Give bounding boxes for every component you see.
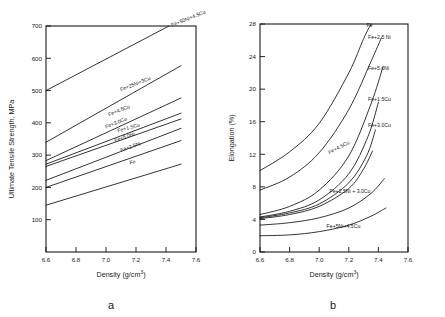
series-curve-fe-2-5ni: [46, 141, 181, 188]
x-tick-label: 6.6: [42, 256, 51, 263]
y-tick-label: 8: [253, 183, 257, 190]
series-label-fe-2-5ni: Fe+2.5Ni: [119, 140, 141, 153]
series-label-fe-25ni-3cu: Fe+25Ni+3Cu: [119, 75, 151, 93]
series-label-fe-50ni-4-5cu: Fe+50Ni+4.5Cu: [170, 9, 206, 28]
series-curve-fe-5ni-4-5cu: [260, 208, 386, 236]
x-tick-label: 7.4: [162, 256, 171, 263]
x-axis-title: Density (g/cm3): [309, 269, 358, 279]
series-curve-fe-3-0cu: [260, 130, 375, 218]
series-curve-fe-2-5ni: [260, 38, 381, 190]
y-tick-label: 12: [249, 151, 256, 158]
panel-b-caption: b: [222, 299, 444, 311]
x-axis-title: Density (g/cm3): [96, 269, 145, 279]
x-tick-label: 6.8: [285, 256, 294, 263]
x-tick-label: 6.8: [72, 256, 81, 263]
y-tick-label: 28: [249, 20, 256, 27]
y-tick-label: 200: [32, 184, 43, 191]
panel-a: 1002003004005006007006.66.87.07.27.47.6D…: [0, 0, 222, 317]
series-label-fe-1-5cu: Fe+1.5Cu: [368, 96, 391, 102]
series-curve-fe: [260, 24, 371, 171]
figure-container: 1002003004005006007006.66.87.07.27.47.6D…: [0, 0, 445, 317]
x-tick-label: 7.6: [192, 256, 201, 263]
x-tick-label: 7.6: [404, 256, 413, 263]
x-tick-label: 6.6: [256, 256, 265, 263]
series-label-fe-2-5ni-3-0cu: Fe+2.5Ni + 3.0Cu: [330, 188, 371, 194]
chart-b-canvas: 04812162024286.66.87.07.27.47.6Density (…: [222, 0, 444, 300]
x-tick-label: 7.4: [374, 256, 383, 263]
plot-frame: [260, 24, 408, 252]
series-label-fe: Fe: [367, 22, 373, 28]
series-curve-fe-5-0ni: [46, 128, 181, 180]
series-curve-fe: [46, 164, 181, 205]
x-tick-label: 7.0: [315, 256, 324, 263]
y-tick-label: 20: [249, 85, 256, 92]
y-tick-label: 700: [32, 22, 43, 29]
series-label-fe-3-0cu: Fe+3.0Cu: [368, 122, 391, 128]
y-tick-label: 16: [249, 118, 256, 125]
series-label-fe-2-5ni: Fe+2.5 Ni: [368, 34, 391, 40]
y-axis-title: Ultimate Tensile Strength, MPa: [7, 100, 16, 199]
series-curve-fe-50ni-4-5cu: [46, 26, 169, 91]
y-tick-label: 4: [253, 216, 257, 223]
y-axis-title: Elongation (%): [227, 114, 236, 161]
series-curve-fe-25ni-3cu: [46, 66, 181, 143]
y-tick-label: 500: [32, 87, 43, 94]
y-tick-label: 24: [249, 53, 256, 60]
y-tick-label: 300: [32, 151, 43, 158]
x-tick-label: 7.0: [102, 256, 111, 263]
y-tick-label: 100: [32, 216, 43, 223]
series-curve-fe-4-5cu: [260, 151, 372, 219]
panel-b: 04812162024286.66.87.07.27.47.6Density (…: [222, 0, 444, 317]
series-label-fe-5-0ni: Fe+5.0Ni: [368, 65, 389, 71]
chart-a-canvas: 1002003004005006007006.66.87.07.27.47.6D…: [0, 0, 222, 300]
x-tick-label: 7.2: [344, 256, 353, 263]
y-tick-label: 600: [32, 55, 43, 62]
y-tick-label: 0: [253, 248, 257, 255]
y-tick-label: 400: [32, 119, 43, 126]
series-curve-fe-4-5cu: [46, 98, 181, 161]
series-label-fe: Fe: [129, 158, 136, 165]
series-label-fe-5-0ni: Fe+5.0Ni: [113, 131, 135, 144]
panel-a-caption: a: [0, 299, 222, 311]
series-label-fe-5ni-4-5cu: Fe+5Ni+4.5Cu: [327, 223, 361, 229]
x-tick-label: 7.2: [132, 256, 141, 263]
series-label-fe-4-5cu: Fe+4.5Cu: [327, 139, 350, 155]
